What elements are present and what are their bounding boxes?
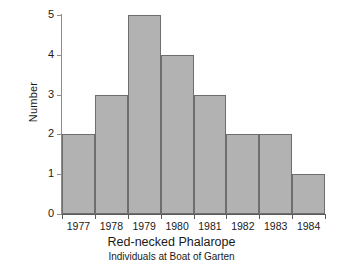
x-tick-mark [95,215,96,219]
y-tick-label: 3 [36,89,54,100]
y-tick-label: 4 [36,49,54,60]
bar [292,174,325,214]
y-tick-label: 0 [36,208,54,219]
x-tick-mark [128,215,129,219]
x-tick-mark [62,215,63,219]
x-tick-mark [292,215,293,219]
x-tick-mark [259,215,260,219]
y-axis-label: Number [27,67,39,137]
plot-area [62,15,325,214]
bar [259,134,292,214]
chart-subtitle: Individuals at Boat of Garten [0,250,343,263]
x-tick-mark [325,215,326,219]
bar [128,15,161,214]
y-tick-label: 1 [36,168,54,179]
bar-chart-figure: Number 012345 19771978197919801981198219… [0,0,343,277]
bar [62,134,95,214]
x-tick-mark [194,215,195,219]
x-tick-label: 1984 [289,220,329,232]
x-tick-mark [161,215,162,219]
y-tick-label: 2 [36,128,54,139]
bar [161,55,194,214]
bar [95,95,128,214]
bar [226,134,259,214]
bar [194,95,227,214]
x-tick-mark [226,215,227,219]
y-tick-label: 5 [36,9,54,20]
chart-title: Red-necked Phalarope [0,235,343,250]
